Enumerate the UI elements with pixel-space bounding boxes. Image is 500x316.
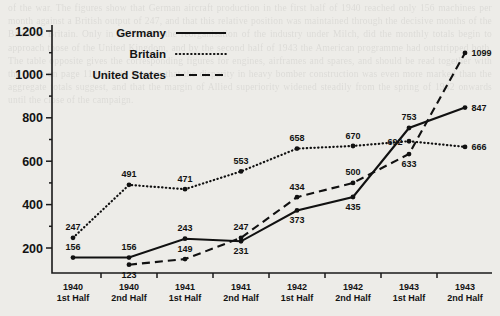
data-point-labels: 1561562432313734357538472474914715536586… bbox=[65, 48, 491, 279]
y-tick-label: 400 bbox=[22, 198, 43, 212]
x-label-half: 2nd Half bbox=[111, 293, 148, 303]
data-point-marker bbox=[351, 181, 356, 186]
data-point-value: 156 bbox=[121, 242, 136, 252]
data-point-value: 847 bbox=[472, 103, 487, 113]
data-point-value: 633 bbox=[401, 159, 416, 169]
data-point-marker bbox=[351, 144, 356, 149]
data-point-marker bbox=[127, 182, 132, 187]
legend-label-germany: Germany bbox=[116, 27, 166, 39]
axis-path bbox=[52, 25, 492, 273]
data-point-marker bbox=[127, 262, 132, 267]
data-point-value: 247 bbox=[233, 222, 248, 232]
data-point-marker bbox=[295, 146, 300, 151]
data-point-value: 123 bbox=[121, 270, 136, 280]
legend-label-britain: Britain bbox=[130, 48, 166, 60]
y-tick-label: 800 bbox=[22, 111, 43, 125]
chart-axes bbox=[52, 25, 492, 273]
data-point-marker bbox=[407, 152, 412, 157]
data-point-marker bbox=[463, 144, 468, 149]
data-point-marker bbox=[463, 51, 468, 56]
x-label-year: 1942 bbox=[287, 282, 307, 292]
data-point-value: 553 bbox=[233, 156, 248, 166]
series-line-germany bbox=[73, 108, 465, 258]
data-point-value: 1099 bbox=[472, 48, 492, 58]
data-point-value: 471 bbox=[177, 174, 192, 184]
data-point-value: 435 bbox=[345, 202, 360, 212]
data-point-value: 149 bbox=[177, 244, 192, 254]
x-label-year: 1941 bbox=[175, 282, 195, 292]
x-label-year: 1940 bbox=[63, 282, 83, 292]
data-point-marker bbox=[463, 105, 468, 110]
y-tick-label: 200 bbox=[22, 242, 43, 256]
data-point-marker bbox=[239, 169, 244, 174]
x-label-half: 1st Half bbox=[57, 293, 91, 303]
data-point-value: 666 bbox=[472, 142, 487, 152]
x-label-half: 2nd Half bbox=[223, 293, 260, 303]
data-point-value: 491 bbox=[121, 169, 136, 179]
chart-legend: GermanyBritainUnited States bbox=[93, 27, 227, 81]
data-point-value: 500 bbox=[345, 167, 360, 177]
data-point-value: 658 bbox=[289, 133, 304, 143]
data-point-marker bbox=[407, 139, 412, 144]
data-point-marker bbox=[127, 255, 132, 260]
x-label-year: 1941 bbox=[231, 282, 251, 292]
x-label-year: 1940 bbox=[119, 282, 139, 292]
x-label-year: 1943 bbox=[455, 282, 475, 292]
x-label-year: 1943 bbox=[399, 282, 419, 292]
data-point-value: 434 bbox=[289, 182, 304, 192]
scanned-chart-page: of the war. The figures show that German… bbox=[0, 0, 500, 316]
data-point-marker bbox=[407, 126, 412, 131]
data-point-value: 247 bbox=[65, 222, 80, 232]
x-label-half: 1st Half bbox=[281, 293, 315, 303]
y-tick-label: 1000 bbox=[15, 68, 43, 82]
data-point-value: 231 bbox=[233, 246, 248, 256]
data-point-marker bbox=[295, 195, 300, 200]
data-point-marker bbox=[239, 235, 244, 240]
x-label-year: 1942 bbox=[343, 282, 363, 292]
data-point-marker bbox=[351, 195, 356, 200]
line-chart: 20040060080010001200 1561562432313734357… bbox=[0, 0, 500, 316]
x-label-half: 2nd Half bbox=[335, 293, 372, 303]
legend-label-united-states: United States bbox=[93, 69, 167, 81]
y-tick-label: 600 bbox=[22, 155, 43, 169]
x-label-half: 2nd Half bbox=[447, 293, 484, 303]
y-tick-label: 1200 bbox=[15, 25, 43, 39]
data-point-value: 156 bbox=[65, 242, 80, 252]
data-point-value: 243 bbox=[177, 223, 192, 233]
data-point-marker bbox=[183, 236, 188, 241]
data-point-value: 692 bbox=[387, 137, 402, 147]
x-label-half: 1st Half bbox=[393, 293, 427, 303]
data-point-marker bbox=[183, 257, 188, 262]
x-axis-labels: 19401st Half19402nd Half19411st Half1941… bbox=[57, 282, 484, 303]
data-point-value: 753 bbox=[401, 112, 416, 122]
x-label-half: 1st Half bbox=[169, 293, 203, 303]
y-axis-ticks: 20040060080010001200 bbox=[15, 25, 52, 256]
data-point-marker bbox=[295, 208, 300, 213]
data-point-marker bbox=[71, 255, 76, 260]
data-point-marker bbox=[71, 235, 76, 240]
data-point-value: 373 bbox=[289, 215, 304, 225]
data-point-marker bbox=[183, 187, 188, 192]
data-point-value: 670 bbox=[345, 131, 360, 141]
